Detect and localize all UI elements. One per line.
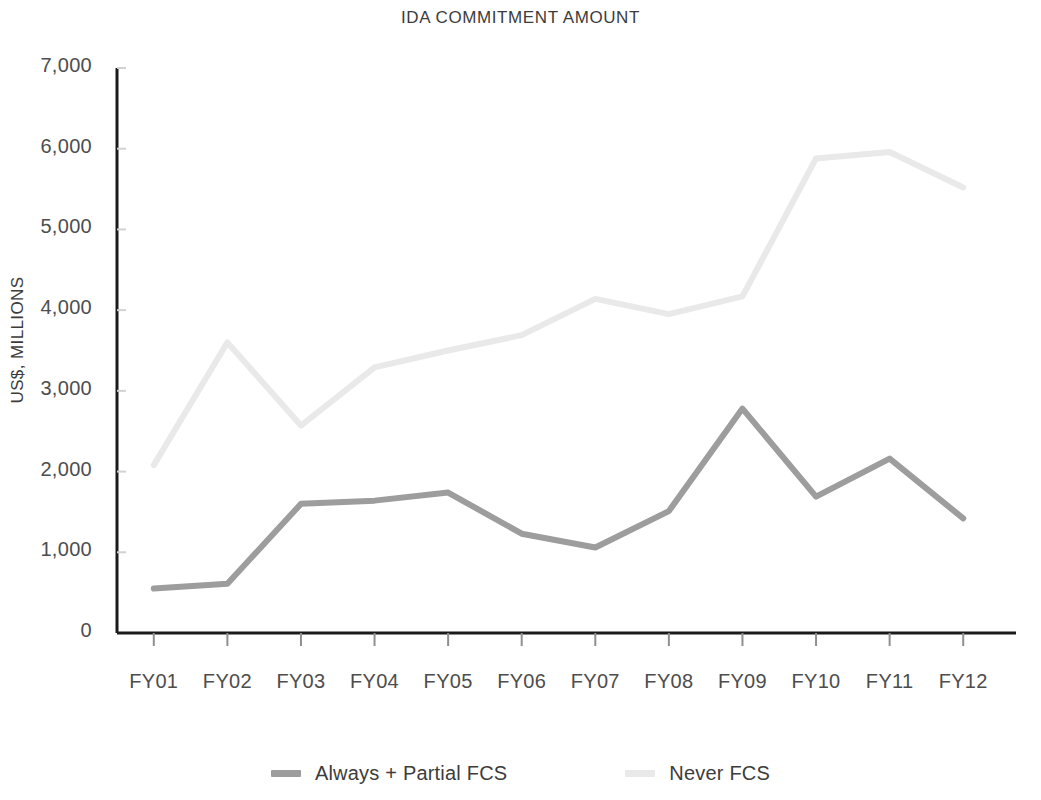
series-line-always-partial-fcs <box>154 409 963 589</box>
legend-item[interactable]: Always + Partial FCS <box>271 762 507 785</box>
legend-label: Never FCS <box>669 762 770 785</box>
legend-swatch-icon <box>271 770 301 777</box>
chart-figure: IDA COMMITMENT AMOUNT US$, MILLIONS 7,00… <box>0 0 1041 800</box>
legend-item[interactable]: Never FCS <box>625 762 770 785</box>
legend-swatch-icon <box>625 770 655 777</box>
legend-label: Always + Partial FCS <box>315 762 507 785</box>
plot-area <box>0 0 1041 800</box>
series-line-never-fcs <box>154 152 963 465</box>
chart-legend: Always + Partial FCSNever FCS <box>0 762 1041 785</box>
